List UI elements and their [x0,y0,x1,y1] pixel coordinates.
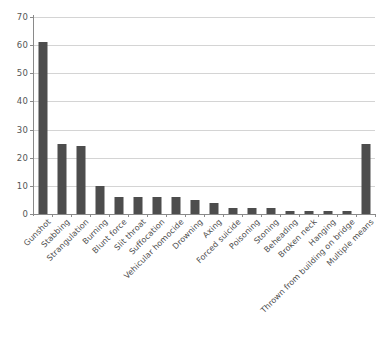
x-axis-tick-mark [375,214,376,217]
x-axis-tick-mark [128,214,129,217]
bar-slot [33,17,52,214]
bar-slot [299,17,318,214]
bar[interactable] [266,208,275,214]
bar[interactable] [361,144,370,214]
bar[interactable] [228,208,237,214]
bar-slot [147,17,166,214]
bar[interactable] [76,146,85,214]
bar-slot [166,17,185,214]
bar[interactable] [152,197,161,214]
bar[interactable] [95,186,104,214]
bar[interactable] [304,211,313,214]
y-axis-tick-label: 20 [17,153,33,162]
bar[interactable] [114,197,123,214]
bar[interactable] [209,203,218,214]
bar[interactable] [323,211,332,214]
bar[interactable] [247,208,256,214]
x-axis-tick-mark [185,214,186,217]
bar-slot [223,17,242,214]
bar[interactable] [38,42,47,214]
bar[interactable] [171,197,180,214]
x-axis-tick-mark [242,214,243,217]
x-axis-tick-mark [166,214,167,217]
y-axis-tick-label: 70 [17,13,33,22]
x-axis-tick-mark [318,214,319,217]
bar-slot [185,17,204,214]
y-axis-tick-label: 40 [17,97,33,106]
bar-slot [52,17,71,214]
bar-slot [204,17,223,214]
bar-slot [71,17,90,214]
x-axis-tick-mark [299,214,300,217]
x-axis-tick-mark [280,214,281,217]
bar[interactable] [342,211,351,214]
bar-slot [356,17,375,214]
bar[interactable] [57,144,66,214]
x-axis-tick-mark [204,214,205,217]
bar-slot [109,17,128,214]
y-axis-tick-label: 30 [17,125,33,134]
x-axis-tick-mark [90,214,91,217]
x-axis-tick-mark [52,214,53,217]
bar[interactable] [133,197,142,214]
x-axis-tick-mark [147,214,148,217]
bar-slot [128,17,147,214]
x-axis-tick-mark [337,214,338,217]
bar[interactable] [190,200,199,214]
y-axis-tick-label: 10 [17,182,33,191]
x-axis-tick-mark [109,214,110,217]
y-axis-tick-label: 50 [17,69,33,78]
y-axis-tick-label: 60 [17,41,33,50]
y-axis-tick-label: 0 [22,210,33,219]
x-axis-tick-mark [223,214,224,217]
bar[interactable] [285,211,294,214]
x-axis-tick-mark [261,214,262,217]
bar-slot [242,17,261,214]
bar-chart: 010203040506070 GunshotStabbingStrangula… [0,0,390,344]
bars-layer [33,17,375,214]
x-axis-tick-mark [71,214,72,217]
bar-slot [90,17,109,214]
bar-slot [337,17,356,214]
bar-slot [280,17,299,214]
x-axis-tick-mark [356,214,357,217]
bar-slot [261,17,280,214]
bar-slot [318,17,337,214]
